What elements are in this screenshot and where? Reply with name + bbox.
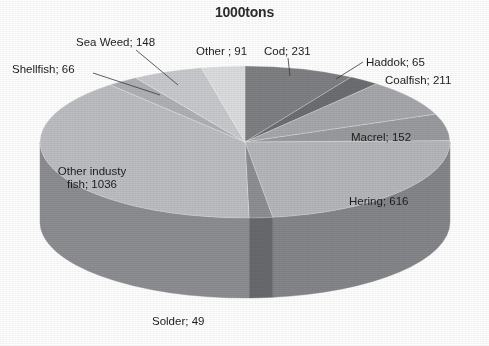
- slice-label-cod: Cod; 231: [264, 45, 311, 58]
- other-industy-fish-line2: fish; 1036: [67, 178, 117, 190]
- slice-label-other: Other ; 91: [196, 45, 247, 58]
- slice-label-hering: Hering; 616: [349, 195, 408, 208]
- slice-label-sea-weed: Sea Weed; 148: [76, 36, 155, 49]
- slice-label-coalfish: Coalfish; 211: [385, 74, 451, 87]
- slice-label-macrel: Macrel; 152: [351, 131, 411, 144]
- slice-label-shellfish: Shellfish; 66: [12, 63, 75, 76]
- slice-label-other-industy-fish: Other industy fish; 1036: [46, 165, 138, 191]
- other-industy-fish-line1: Other industy: [58, 165, 126, 177]
- pie-chart-figure: 1000tons Sea Weed; 148 Other ; 91 Cod; 2…: [0, 0, 489, 346]
- slice-label-haddok: Haddok; 65: [366, 56, 425, 69]
- slice-label-solder: Solder; 49: [152, 315, 204, 328]
